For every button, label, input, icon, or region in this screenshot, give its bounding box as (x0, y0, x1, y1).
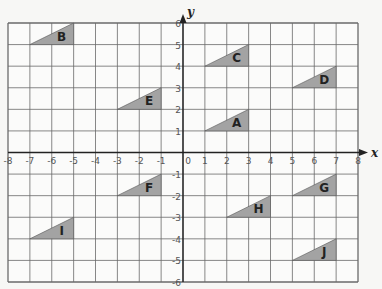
y-tick-label: -5 (172, 256, 181, 266)
y-tick-label: 4 (175, 62, 181, 72)
x-axis-label: x (370, 146, 379, 160)
y-tick-label: -4 (172, 235, 181, 245)
y-tick-label: 5 (175, 41, 181, 51)
x-tick-label: 1 (202, 156, 208, 166)
triangle-label: E (145, 94, 153, 108)
x-tick-label: 5 (290, 156, 296, 166)
coordinate-plane: ABCDEFGHIJ xy -8-7-6-5-4-3-2-10123456786… (0, 0, 382, 289)
x-tick-label: -8 (4, 156, 13, 166)
y-tick-label: -2 (172, 192, 181, 202)
triangle-label: J (321, 245, 326, 259)
x-tick-label: 0 (185, 156, 191, 166)
triangle-label: G (319, 181, 329, 195)
triangle-label: B (57, 30, 66, 44)
x-tick-label: 4 (268, 156, 274, 166)
triangle-label: H (253, 202, 263, 216)
triangle-label: F (145, 181, 153, 195)
y-tick-label: -3 (172, 213, 181, 223)
x-tick-label: -2 (135, 156, 144, 166)
y-tick-label: 2 (175, 105, 181, 115)
x-tick-label: -4 (91, 156, 100, 166)
triangle-label: A (232, 116, 242, 130)
y-tick-label: 3 (175, 84, 181, 94)
x-tick-label: 6 (311, 156, 317, 166)
x-tick-label: 3 (246, 156, 252, 166)
triangle-label: D (319, 73, 329, 87)
triangle-label: C (232, 51, 241, 65)
x-tick-label: -3 (113, 156, 122, 166)
y-axis-label: y (186, 5, 195, 19)
x-tick-label: -1 (157, 156, 166, 166)
x-tick-label: 8 (355, 156, 361, 166)
x-tick-label: -7 (25, 156, 34, 166)
y-tick-label: -1 (172, 170, 181, 180)
y-tick-label: 1 (175, 127, 181, 137)
y-tick-label: -6 (172, 278, 181, 288)
x-tick-label: 7 (333, 156, 339, 166)
y-tick-label: 6 (175, 19, 181, 29)
x-tick-label: -6 (47, 156, 56, 166)
x-tick-label: 2 (224, 156, 230, 166)
x-tick-label: -5 (69, 156, 78, 166)
triangle-label: I (59, 224, 63, 238)
